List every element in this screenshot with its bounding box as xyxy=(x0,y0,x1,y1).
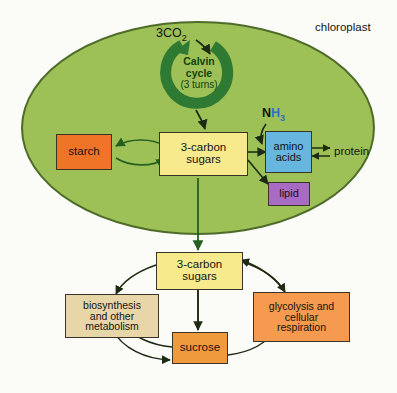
protein-label: protein xyxy=(334,145,369,157)
sugars-chloroplast-line2: sugars xyxy=(186,154,221,166)
sugars-to-biosynthesis-arrow xyxy=(116,265,156,294)
calvin-cycle-line2: cycle xyxy=(168,68,230,80)
sucrose-box[interactable]: sucrose xyxy=(172,332,228,364)
diagram-canvas: chloroplast 3CO2 Calvin cycle (3 turns) xyxy=(0,0,397,393)
lipid-box[interactable]: lipid xyxy=(268,182,310,206)
amino-acids-line2: acids xyxy=(276,152,302,163)
glycolysis-line1: glycolysis and xyxy=(269,301,334,312)
sugars-cytosol-box[interactable]: 3-carbon sugars xyxy=(156,252,243,290)
nh3-hydrogen: H xyxy=(271,106,280,120)
sugars-chloroplast-box[interactable]: 3-carbon sugars xyxy=(159,132,248,176)
calvin-cycle-line3: (3 turns) xyxy=(168,79,230,90)
calvin-cycle-label: Calvin cycle (3 turns) xyxy=(168,56,230,90)
glycolysis-to-sugars-arrow xyxy=(241,260,282,288)
co2-inflow-arrow xyxy=(196,40,210,54)
nh3-label: NH3 xyxy=(262,106,285,123)
starch-box[interactable]: starch xyxy=(56,134,112,170)
calvin-to-sugars-arrow xyxy=(196,110,205,129)
chloroplast-outline xyxy=(22,22,374,234)
starch-label: starch xyxy=(68,146,99,158)
sugars-to-glycolysis-arrow xyxy=(243,262,285,292)
chloroplast-label: chloroplast xyxy=(315,21,371,33)
sugars-to-starch-arrow xyxy=(116,140,165,146)
co2-subscript: 2 xyxy=(182,33,187,43)
glycolysis-box[interactable]: glycolysis and cellular respiration xyxy=(253,292,350,342)
co2-input-label: 3CO2 xyxy=(156,26,187,43)
sucrose-label: sucrose xyxy=(180,342,220,354)
sugars-cytosol-line2: sugars xyxy=(182,271,217,283)
biosynthesis-line3: metabolism xyxy=(85,321,139,332)
co2-text: 3CO xyxy=(156,26,182,40)
biosynthesis-box[interactable]: biosynthesis and other metabolism xyxy=(65,294,159,338)
starch-to-sugars-arrow xyxy=(116,158,165,165)
lipid-label: lipid xyxy=(279,188,299,199)
amino-acids-box[interactable]: amino acids xyxy=(265,131,312,173)
calvin-cycle-line1: Calvin xyxy=(168,56,230,68)
biosynthesis-line1: biosynthesis xyxy=(83,300,141,311)
nh3-nitrogen: N xyxy=(262,106,271,120)
nh3-subscript: 3 xyxy=(280,113,285,123)
glycolysis-line3: respiration xyxy=(277,322,326,333)
